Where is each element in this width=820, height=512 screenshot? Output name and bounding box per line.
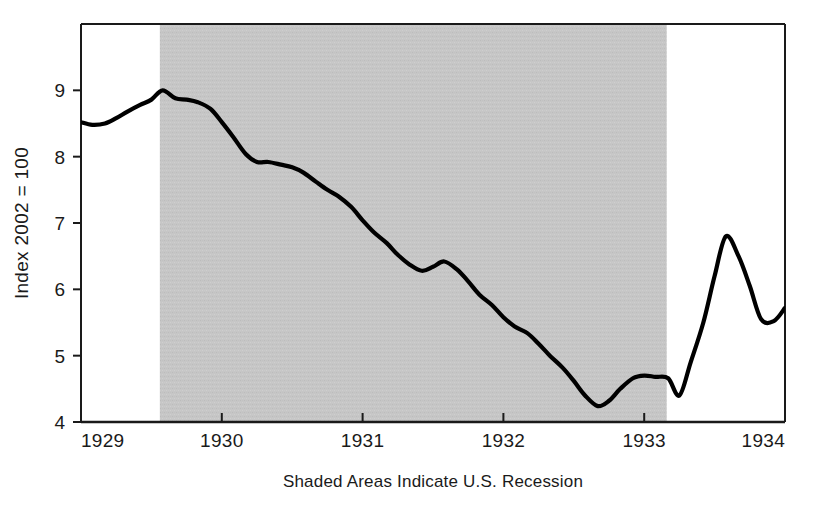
recession-shading-group: [160, 24, 667, 422]
recession-band-0: [160, 24, 667, 422]
x-tick-label-1931: 1931: [341, 430, 384, 451]
recession-caption: Shaded Areas Indicate U.S. Recession: [283, 472, 583, 491]
y-tick-label-8: 8: [54, 147, 65, 168]
y-tick-label-4: 4: [54, 412, 65, 433]
y-axis-ticks: 456789: [54, 80, 81, 433]
x-tick-label-1930: 1930: [200, 430, 243, 451]
line-chart: 456789 192919301931193219331934 Index 20…: [0, 0, 820, 512]
x-tick-label-1932: 1932: [482, 430, 525, 451]
y-axis-title: Index 2002 = 100: [11, 147, 32, 299]
x-tick-label-1933: 1933: [622, 430, 665, 451]
y-tick-label-9: 9: [54, 80, 65, 101]
x-tick-label-1934: 1934: [742, 430, 786, 451]
y-tick-label-6: 6: [54, 279, 65, 300]
chart-figure: 456789 192919301931193219331934 Index 20…: [0, 0, 820, 512]
x-tick-label-1929: 1929: [81, 430, 124, 451]
y-tick-label-7: 7: [54, 213, 65, 234]
y-tick-label-5: 5: [54, 346, 65, 367]
